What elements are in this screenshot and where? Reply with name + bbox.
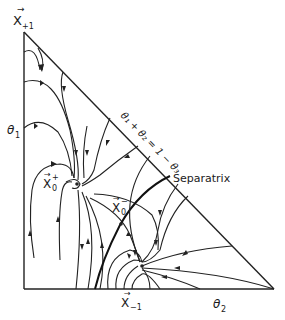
hypotenuse-line xyxy=(24,32,274,289)
svg-text:θ: θ xyxy=(213,297,221,311)
svg-text:1: 1 xyxy=(15,131,20,140)
svg-text:−: − xyxy=(121,197,128,206)
svg-text:X: X xyxy=(43,177,51,191)
label-x-plus1: → X +1 xyxy=(13,4,34,31)
svg-text:−1: −1 xyxy=(130,303,142,312)
label-x0-plus: → X 0 + xyxy=(43,170,59,193)
svg-text:0: 0 xyxy=(121,208,126,217)
label-x-minus1: → X −1 xyxy=(121,289,142,312)
svg-text:+: + xyxy=(52,173,59,182)
svg-text:X: X xyxy=(13,13,22,28)
phase-portrait-diagram: → X +1 θ 1 → X 0 + → X 0 − θ₁ + θ₂ = 1 −… xyxy=(0,0,285,320)
svg-text:0: 0 xyxy=(52,184,57,193)
stable-node-marker xyxy=(75,182,79,186)
label-theta2: θ 2 xyxy=(213,297,226,314)
separatrix-curve xyxy=(95,176,170,289)
simplex-triangle xyxy=(24,32,274,289)
saddle-point-marker xyxy=(119,222,123,226)
hypotenuse-equation-label: θ₁ + θ₂ = 1 − θ₃ xyxy=(119,110,183,176)
svg-text:X: X xyxy=(112,201,120,215)
svg-text:X: X xyxy=(121,296,129,310)
svg-text:+1: +1 xyxy=(22,22,34,31)
svg-text:θ: θ xyxy=(7,123,15,137)
trajectories xyxy=(24,48,274,289)
separatrix-label: Separatrix xyxy=(173,172,231,185)
label-theta1: θ 1 xyxy=(7,123,20,140)
svg-text:2: 2 xyxy=(221,305,226,314)
x-minus1-node-marker xyxy=(140,264,144,268)
